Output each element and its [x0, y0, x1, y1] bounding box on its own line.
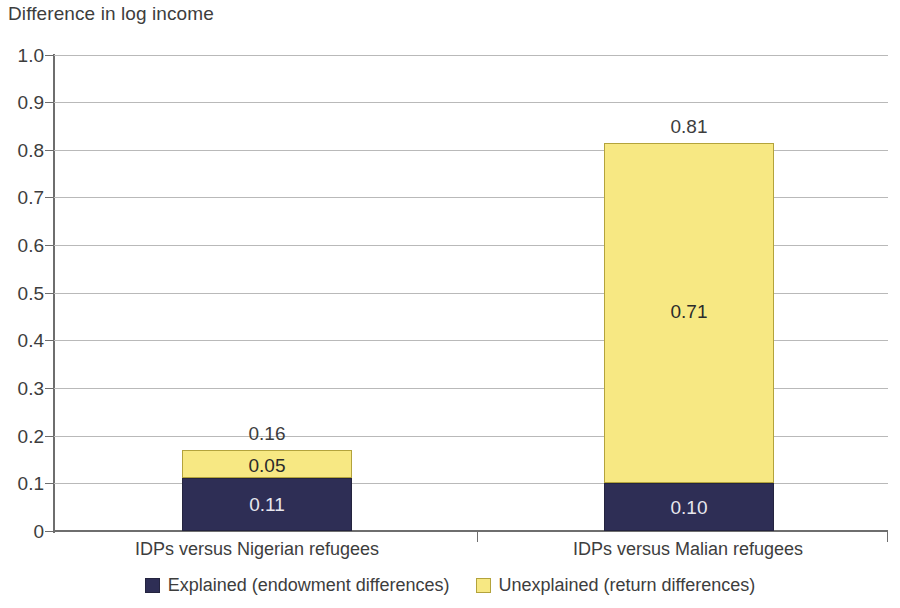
bar-segment-value: 0.11	[183, 495, 351, 514]
y-axis-tick-label: 1.0	[2, 46, 44, 65]
bar-total-label-1: 0.81	[604, 117, 774, 136]
x-axis-tick-mark	[887, 531, 888, 542]
y-axis-labels: 1.0 0.9 0.8 0.7 0.6 0.5 0.4 0.3 0.2 0.1 …	[0, 0, 44, 608]
bar-segment-unexplained-1[interactable]: 0.71	[604, 143, 774, 483]
legend-item-explained[interactable]: Explained (endowment differences)	[145, 576, 450, 594]
chart-legend: Explained (endowment differences) Unexpl…	[0, 576, 900, 594]
gridline	[54, 55, 888, 56]
y-axis-tick-label: 0.6	[2, 236, 44, 255]
y-axis-tick-label: 0.8	[2, 141, 44, 160]
bar-segment-explained-0[interactable]: 0.11	[182, 478, 352, 531]
y-axis-tick-label: 0	[2, 522, 44, 541]
y-axis-tick-label: 0.7	[2, 188, 44, 207]
bar-segment-value: 0.71	[605, 302, 773, 321]
bar-segment-value: 0.10	[605, 498, 773, 517]
y-axis-tick-label: 0.1	[2, 474, 44, 493]
x-axis-category-label-1: IDPs versus Malian refugees	[538, 540, 838, 558]
legend-swatch-icon	[476, 578, 491, 593]
legend-item-label: Explained (endowment differences)	[168, 576, 450, 594]
gridline	[54, 102, 888, 103]
y-axis-tick-label: 0.2	[2, 427, 44, 446]
y-axis-tick-label: 0.9	[2, 93, 44, 112]
legend-item-unexplained[interactable]: Unexplained (return differences)	[476, 576, 756, 594]
bar-segment-value: 0.05	[183, 456, 351, 475]
y-axis-tick-label: 0.5	[2, 284, 44, 303]
y-axis-tick-label: 0.3	[2, 379, 44, 398]
bar-segment-unexplained-0[interactable]: 0.05	[182, 450, 352, 478]
bar-segment-explained-1[interactable]: 0.10	[604, 483, 774, 531]
x-axis-category-label-0: IDPs versus Nigerian refugees	[107, 540, 407, 558]
x-axis-tick-mark	[477, 531, 478, 542]
bar-total-label-0: 0.16	[182, 424, 352, 443]
y-axis-tick-label: 0.4	[2, 331, 44, 350]
legend-item-label: Unexplained (return differences)	[499, 576, 756, 594]
chart-container: Difference in log income 1.0 0.9 0.8 0.7…	[0, 0, 900, 608]
legend-swatch-icon	[145, 578, 160, 593]
